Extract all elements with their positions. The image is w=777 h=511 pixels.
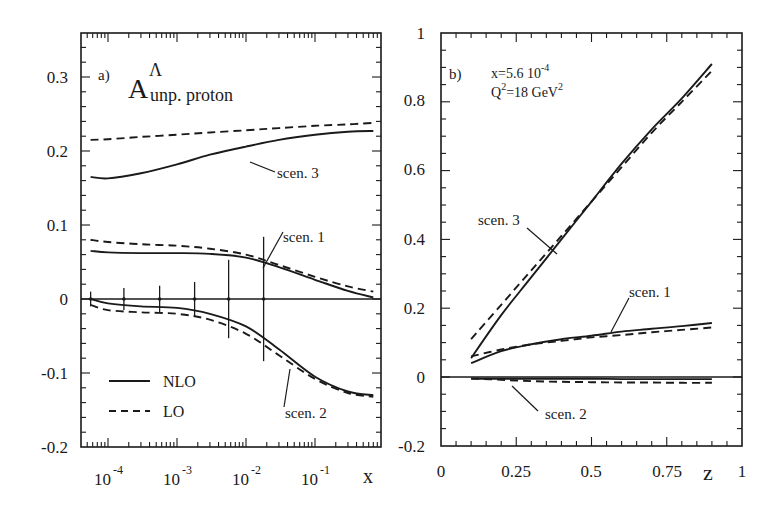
annotation-leader bbox=[284, 369, 290, 407]
plot-title-superscript: Λ bbox=[149, 60, 162, 80]
data-point bbox=[193, 297, 197, 301]
x-axis-label: z bbox=[703, 460, 713, 485]
legend-nlo-label: NLO bbox=[163, 373, 196, 390]
data-point bbox=[122, 297, 126, 301]
curve-scen-1-lo bbox=[471, 328, 712, 357]
panel-label: b) bbox=[449, 66, 462, 83]
x-tick-label: 0.75 bbox=[652, 462, 682, 481]
annotation-scen2: scen. 2 bbox=[285, 405, 327, 421]
x-tick-label: 0 bbox=[437, 462, 446, 481]
y-tick-label: -0.2 bbox=[41, 438, 68, 457]
y-tick-label: 0.8 bbox=[404, 91, 425, 110]
info-q2-value: Q2=18 GeV2 bbox=[491, 81, 563, 100]
data-point bbox=[158, 297, 162, 301]
y-tick-label: -0.2 bbox=[398, 437, 425, 456]
curve-scen-1-lo bbox=[91, 240, 374, 292]
panel-b-ticks bbox=[441, 33, 742, 446]
curve-scen-3-lo bbox=[91, 123, 374, 140]
x-tick-label: 10-4 bbox=[94, 463, 123, 489]
data-point bbox=[262, 297, 266, 301]
x-tick-label: 1 bbox=[738, 462, 747, 481]
plot-title-subscript: unp. proton bbox=[150, 85, 233, 105]
panel-a-y-tick-labels: 0.3 0.2 0.1 0 -0.1 -0.2 bbox=[41, 68, 68, 457]
panel-a-x-tick-labels: 10-4 10-3 10-2 10-1 x bbox=[94, 463, 373, 489]
annotation-leader bbox=[611, 298, 629, 332]
annotation-scen1: scen. 1 bbox=[283, 229, 325, 245]
annotation-scen3: scen. 3 bbox=[277, 165, 319, 181]
data-point bbox=[227, 297, 231, 301]
annotation-leader bbox=[527, 228, 557, 254]
y-tick-label: 0.4 bbox=[404, 230, 426, 249]
plot-title: A bbox=[128, 73, 149, 104]
curve-scen-1-nlo bbox=[91, 251, 374, 298]
info-x-value: x=5.6 10-4 bbox=[491, 62, 549, 81]
data-point bbox=[89, 297, 93, 301]
panel-b: 1 0.8 0.6 0.4 0.2 0 -0.2 0 0.25 0.5 0.75… bbox=[398, 24, 746, 485]
x-axis-label: x bbox=[363, 465, 373, 487]
curve-scen-2-lo bbox=[91, 305, 374, 397]
legend: NLO LO bbox=[109, 373, 196, 420]
y-tick-label: 0.3 bbox=[47, 68, 68, 87]
annotation-scen3: scen. 3 bbox=[478, 212, 520, 228]
y-tick-label: 0 bbox=[417, 368, 426, 387]
annotation-leader bbox=[512, 386, 538, 411]
x-tick-label: 0.25 bbox=[501, 462, 531, 481]
x-tick-label: 0.5 bbox=[580, 462, 601, 481]
panel-b-frame bbox=[441, 33, 742, 446]
panel-a-curves bbox=[91, 123, 374, 397]
x-tick-label: 10-3 bbox=[163, 463, 192, 489]
panel-b-x-tick-labels: 0 0.25 0.5 0.75 1 z bbox=[437, 460, 747, 485]
panel-a: 0.3 0.2 0.1 0 -0.1 -0.2 10-4 10-3 10-2 1… bbox=[41, 33, 381, 489]
figure: 0.3 0.2 0.1 0 -0.1 -0.2 10-4 10-3 10-2 1… bbox=[0, 0, 777, 511]
legend-lo-label: LO bbox=[163, 403, 184, 420]
annotation-scen1: scen. 1 bbox=[629, 284, 671, 300]
x-tick-label: 10-2 bbox=[232, 463, 261, 489]
curve-scen-3-lo bbox=[471, 71, 712, 339]
annotation-leader bbox=[250, 162, 275, 172]
y-tick-label: 0.2 bbox=[47, 142, 68, 161]
curve-scen-1-nlo bbox=[471, 323, 712, 363]
panel-b-y-tick-labels: 1 0.8 0.6 0.4 0.2 0 -0.2 bbox=[398, 24, 425, 456]
x-tick-label: 10-1 bbox=[301, 463, 330, 489]
y-tick-label: -0.1 bbox=[41, 364, 68, 383]
y-tick-label: 1 bbox=[417, 24, 426, 43]
panel-label: a) bbox=[98, 67, 110, 84]
y-tick-label: 0.1 bbox=[47, 216, 68, 235]
y-tick-label: 0.2 bbox=[404, 299, 425, 318]
y-tick-label: 0 bbox=[60, 290, 69, 309]
y-tick-label: 0.6 bbox=[404, 160, 425, 179]
annotation-scen2: scen. 2 bbox=[545, 406, 587, 422]
